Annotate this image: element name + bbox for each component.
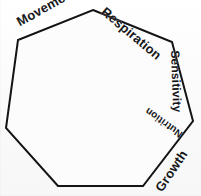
edge-label-sensitivity: Sensitivity: [168, 50, 184, 113]
heptagon-outline: [6, 10, 193, 186]
diagram-canvas: Movement Respiration Sensitivity Nutriti…: [0, 0, 201, 196]
